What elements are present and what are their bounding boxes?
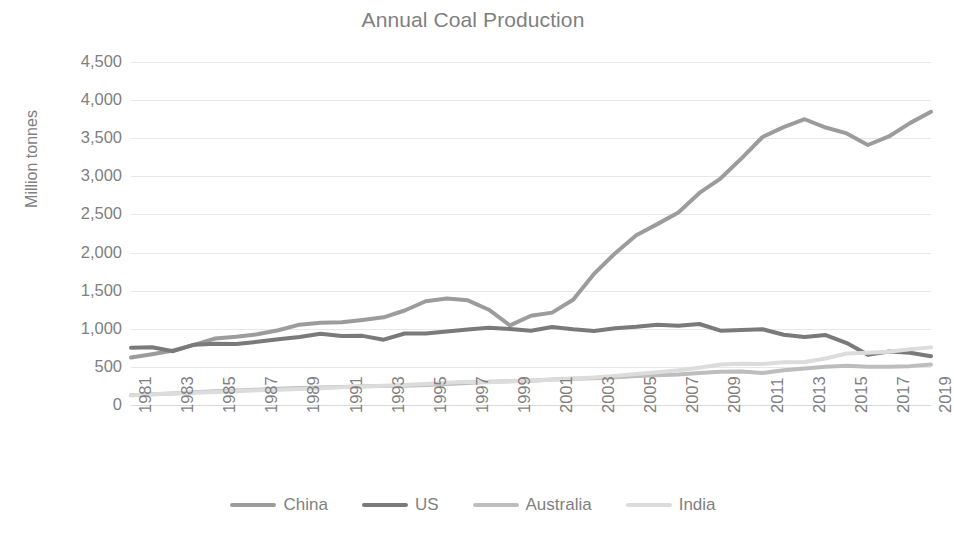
y-axis-tick-label: 2,000 xyxy=(12,244,122,261)
series-line-us xyxy=(131,324,931,356)
legend-item-australia[interactable]: Australia xyxy=(473,496,592,513)
x-axis-tick-label: 1989 xyxy=(305,376,322,413)
x-axis-tick-label: 1991 xyxy=(348,376,365,413)
x-axis-tick-label: 2019 xyxy=(937,376,954,413)
legend-swatch-icon xyxy=(626,503,672,507)
x-axis-tick-label: 1999 xyxy=(516,376,533,413)
x-axis-tick-label: 2001 xyxy=(558,376,575,413)
y-axis-tick-label: 2,500 xyxy=(12,205,122,222)
legend-label: US xyxy=(415,496,439,513)
x-axis-tick-label: 1981 xyxy=(137,376,154,413)
legend-item-india[interactable]: India xyxy=(626,496,716,513)
x-axis-tick-label: 2007 xyxy=(684,376,701,413)
chart-legend: ChinaUSAustraliaIndia xyxy=(0,496,946,513)
y-axis-tick-label: 500 xyxy=(12,358,122,375)
y-axis-tick-label: 1,500 xyxy=(12,282,122,299)
series-line-china xyxy=(131,112,931,358)
x-axis-tick-label: 1985 xyxy=(221,376,238,413)
x-axis-tick-label: 2011 xyxy=(769,378,786,413)
x-axis-tick-label: 2017 xyxy=(895,376,912,413)
x-axis-tick-label: 1993 xyxy=(390,376,407,413)
x-axis-tick-labels: 1981198319851987198919911993199519971999… xyxy=(131,405,931,495)
x-axis-tick-label: 2013 xyxy=(811,376,828,413)
y-axis-tick-label: 4,500 xyxy=(12,53,122,70)
series-lines xyxy=(131,62,931,405)
y-axis-tick-label: 0 xyxy=(12,396,122,413)
chart-title: Annual Coal Production xyxy=(0,8,946,32)
y-axis-tick-labels: 4,5004,0003,5003,0002,5002,0001,5001,000… xyxy=(10,0,122,545)
x-axis-tick-label: 1995 xyxy=(432,376,449,413)
x-axis-tick-label: 2015 xyxy=(853,376,870,413)
x-axis-tick-label: 2003 xyxy=(600,376,617,413)
legend-swatch-icon xyxy=(230,503,276,507)
x-axis-tick-label: 2005 xyxy=(642,376,659,413)
legend-label: China xyxy=(283,496,327,513)
legend-item-us[interactable]: US xyxy=(362,496,439,513)
y-axis-tick-label: 3,000 xyxy=(12,167,122,184)
x-axis-tick-label: 1987 xyxy=(263,376,280,413)
y-axis-tick-label: 4,000 xyxy=(12,91,122,108)
y-axis-tick-label: 3,500 xyxy=(12,129,122,146)
legend-label: Australia xyxy=(526,496,592,513)
plot-area xyxy=(131,62,931,405)
x-axis-tick-label: 2009 xyxy=(726,376,743,413)
x-axis-tick-label: 1983 xyxy=(179,376,196,413)
y-axis-tick-label: 1,000 xyxy=(12,320,122,337)
legend-item-china[interactable]: China xyxy=(230,496,327,513)
legend-swatch-icon xyxy=(362,503,408,507)
legend-swatch-icon xyxy=(473,503,519,507)
x-axis-tick-label: 1997 xyxy=(474,376,491,413)
legend-label: India xyxy=(679,496,716,513)
